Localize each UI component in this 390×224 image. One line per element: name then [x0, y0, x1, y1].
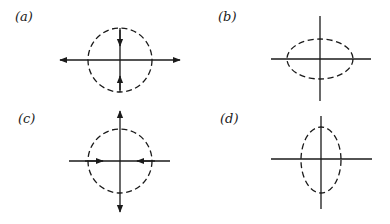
panel-b	[271, 16, 371, 101]
panel-label-c: (c)	[18, 111, 35, 126]
panel-label-d: (d)	[220, 111, 238, 126]
panel-c	[69, 111, 170, 212]
panel-label-a: (a)	[15, 9, 33, 24]
panel-d	[271, 116, 372, 209]
panel-label-b: (b)	[218, 9, 236, 24]
panel-a	[60, 28, 180, 92]
phase-portrait-diagram	[0, 0, 390, 224]
